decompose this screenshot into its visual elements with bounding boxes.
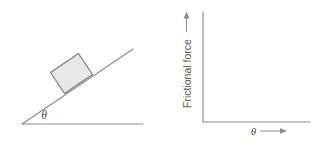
physics-figure: θ Frictional force θ bbox=[0, 0, 317, 146]
y-axis-label: Frictional force bbox=[181, 39, 193, 108]
y-axis-direction-arrow-head bbox=[184, 12, 190, 19]
inclined-plane-svg: θ bbox=[0, 0, 158, 146]
x-axis-label: θ bbox=[251, 126, 256, 137]
frictional-force-graph: Frictional force θ bbox=[158, 0, 317, 146]
inclined-plane-diagram: θ bbox=[0, 0, 158, 146]
block-on-incline bbox=[51, 54, 93, 94]
angle-theta-label: θ bbox=[41, 109, 47, 121]
x-axis-direction-arrow-head bbox=[280, 128, 287, 134]
graph-svg: Frictional force θ bbox=[158, 0, 317, 146]
